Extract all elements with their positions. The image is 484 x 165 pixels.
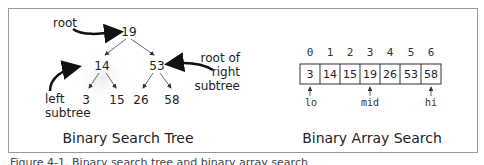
array-cell: 19 — [363, 68, 377, 81]
array-cell: 14 — [323, 68, 337, 81]
hi-pointer: hi — [425, 97, 437, 108]
root-arrow — [73, 29, 119, 34]
array-indices: 0 1 2 3 4 5 6 — [307, 46, 435, 59]
svg-text:3: 3 — [367, 46, 374, 59]
right-root-label-2: right — [212, 65, 240, 79]
array-cell: 26 — [383, 68, 397, 81]
svg-text:4: 4 — [387, 46, 394, 59]
mid-pointer: mid — [361, 97, 379, 108]
svg-text:2: 2 — [347, 46, 354, 59]
array-cells: 3 14 15 19 26 53 58 — [300, 64, 441, 84]
tree-node-58: 58 — [164, 93, 179, 107]
tree-title: Binary Search Tree — [62, 130, 193, 146]
svg-text:0: 0 — [307, 46, 314, 59]
tree-node-15: 15 — [109, 93, 124, 107]
svg-text:1: 1 — [327, 46, 334, 59]
diagram-canvas: 19 14 53 3 15 26 58 root left subtree ro… — [0, 0, 484, 165]
array-cell: 3 — [307, 68, 314, 81]
array-cell: 15 — [343, 68, 357, 81]
right-root-label-3: subtree — [194, 79, 240, 93]
array-cell: 53 — [404, 68, 418, 81]
root-label: root — [53, 16, 77, 30]
svg-text:6: 6 — [428, 46, 435, 59]
tree-node-3: 3 — [82, 93, 90, 107]
right-root-label-1: root of — [201, 51, 241, 65]
array-title: Binary Array Search — [302, 130, 442, 146]
figure-caption: Figure 4-1. Binary search tree and binar… — [10, 156, 308, 165]
left-subtree-arrow — [50, 67, 77, 91]
left-subtree-label-2: subtree — [45, 106, 91, 120]
array-pointers: lo mid hi — [305, 87, 437, 108]
tree-node-14: 14 — [94, 59, 109, 73]
tree-node-root: 19 — [121, 25, 136, 39]
tree-node-53: 53 — [149, 59, 164, 73]
left-subtree-label-1: left — [45, 92, 65, 106]
lo-pointer: lo — [305, 97, 317, 108]
array-cell: 58 — [424, 68, 438, 81]
svg-text:5: 5 — [408, 46, 415, 59]
tree-node-26: 26 — [133, 93, 148, 107]
